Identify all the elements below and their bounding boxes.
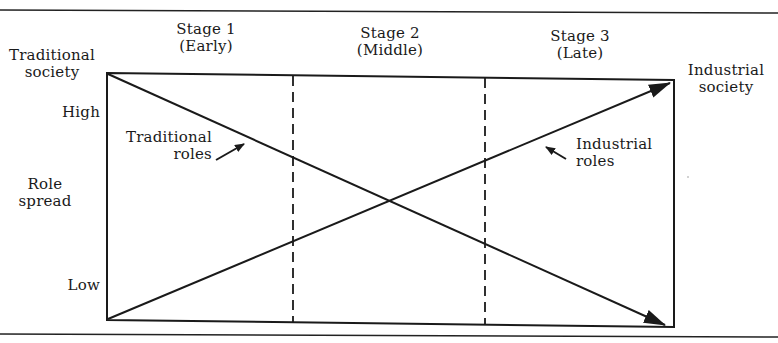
y-axis-title-line2: spread — [10, 193, 80, 210]
stage-3-label: Stage 3 — [540, 28, 620, 45]
traditional-society-line1: Traditional — [4, 47, 100, 64]
stage-1-label: Stage 1 — [166, 21, 246, 38]
y-axis-title: Role spread — [10, 176, 80, 210]
y-axis-high: High — [54, 104, 100, 121]
industrial-roles-line — [108, 83, 670, 319]
top-rule — [0, 10, 778, 13]
stage-3-sub: (Late) — [540, 45, 620, 62]
traditional-society-line2: society — [4, 64, 100, 81]
y-axis-title-line1: Role — [10, 176, 80, 193]
stage-1-sub: (Early) — [166, 38, 246, 55]
bottom-rule — [0, 334, 778, 337]
scan-speck — [687, 176, 689, 178]
traditional-roles-line2: roles — [116, 146, 212, 163]
industrial-roles-label: Industrial roles — [576, 136, 666, 170]
industrial-roles-line1: Industrial — [576, 136, 666, 153]
traditional-society-label: Traditional society — [4, 47, 100, 81]
stage-2-label: Stage 2 — [345, 25, 435, 42]
traditional-roles-pointer — [216, 144, 244, 160]
industrial-society-label: Industrial society — [680, 62, 772, 96]
stage-2-sub: (Middle) — [345, 42, 435, 59]
y-axis-low: Low — [54, 277, 100, 294]
industrial-roles-pointer — [546, 147, 566, 159]
stage-3-header: Stage 3 (Late) — [540, 28, 620, 62]
traditional-roles-label: Traditional roles — [116, 129, 212, 163]
industrial-society-line1: Industrial — [680, 62, 772, 79]
industrial-roles-line2: roles — [576, 153, 666, 170]
traditional-roles-line1: Traditional — [116, 129, 212, 146]
traditional-roles-line — [108, 74, 665, 325]
stage-1-header: Stage 1 (Early) — [166, 21, 246, 55]
industrial-society-line2: society — [680, 79, 772, 96]
stage-2-header: Stage 2 (Middle) — [345, 25, 435, 59]
